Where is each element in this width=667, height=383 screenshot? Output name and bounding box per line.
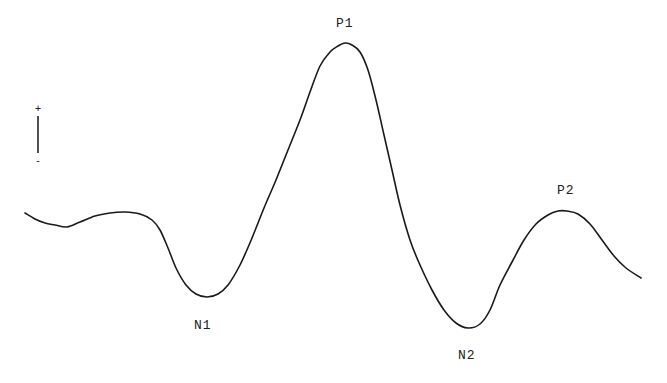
scale-plus-sign: + [35, 104, 41, 114]
peak-label-p1: P1 [336, 16, 354, 31]
peak-label-n2: N2 [458, 348, 476, 363]
peak-label-n1: N1 [194, 318, 212, 333]
waveform-trace [25, 43, 641, 328]
peak-label-p2: P2 [557, 183, 575, 198]
scale-minus-sign: - [35, 156, 41, 166]
